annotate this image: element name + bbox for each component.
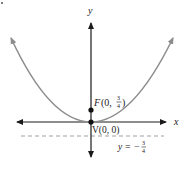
focus-point	[88, 107, 93, 112]
vertex-label: V(0, 0)	[92, 125, 119, 136]
parabola-figure: y x F (0, 3 4 ) V(0, 0) y = − 3 4	[0, 0, 184, 169]
svg-text:3: 3	[142, 140, 145, 146]
svg-text:3: 3	[117, 95, 120, 101]
svg-text:4: 4	[117, 103, 120, 109]
focus-label: F (0, 3 4 )	[93, 95, 125, 109]
svg-text:(0,: (0,	[101, 97, 112, 109]
svg-text:): )	[122, 97, 125, 109]
directrix-label: y = − 3 4	[117, 140, 146, 154]
vertex-point	[88, 119, 93, 124]
corner-dot	[1, 2, 3, 4]
svg-text:F: F	[93, 97, 101, 108]
parabola-right-branch	[91, 38, 173, 122]
svg-text:4: 4	[142, 148, 145, 154]
svg-text:y = −: y = −	[117, 142, 140, 152]
y-axis-label: y	[87, 5, 93, 16]
x-axis-label: x	[173, 116, 179, 127]
parabola-left-branch	[11, 38, 91, 122]
